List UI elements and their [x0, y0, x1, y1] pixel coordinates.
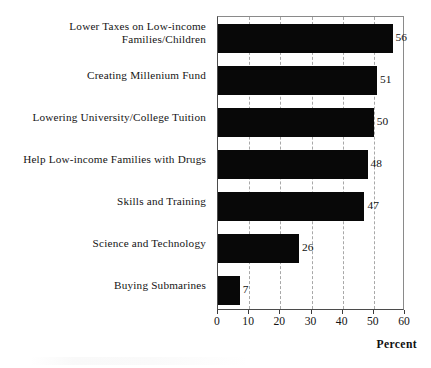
x-tick-label: 40	[336, 316, 348, 328]
bar-chart: Lower Taxes on Low-income Families/Child…	[0, 0, 431, 368]
category-label: Lower Taxes on Low-income Families/Child…	[69, 20, 206, 46]
x-tick-20	[279, 310, 280, 314]
category-label: Skills and Training	[117, 195, 206, 208]
bar	[218, 108, 374, 137]
bar-value-label: 47	[367, 200, 378, 211]
x-axis-title: Percent	[376, 338, 417, 351]
x-tick-40	[342, 310, 343, 314]
x-tick-60	[404, 310, 405, 314]
scan-artifact	[30, 357, 250, 365]
category-label: Help Low-income Families with Drugs	[23, 153, 206, 166]
category-label: Buying Submarines	[114, 279, 206, 292]
bar	[218, 66, 377, 95]
x-tick-label: 30	[305, 316, 317, 328]
x-axis: 0102030405060	[217, 310, 404, 336]
bar-value-label: 56	[396, 32, 407, 43]
bar	[218, 276, 240, 305]
x-tick-30	[311, 310, 312, 314]
x-tick-label: 50	[367, 316, 379, 328]
x-tick-10	[248, 310, 249, 314]
x-tick-label: 0	[214, 316, 220, 328]
x-tick-label: 10	[242, 316, 254, 328]
bar	[218, 150, 368, 179]
bar	[218, 234, 299, 263]
bar-value-label: 7	[243, 284, 249, 295]
x-tick-label: 20	[274, 316, 286, 328]
x-tick-50	[373, 310, 374, 314]
category-axis-labels: Lower Taxes on Low-income Families/Child…	[0, 14, 212, 310]
x-tick-0	[217, 310, 218, 314]
bar-value-label: 51	[380, 74, 391, 85]
category-label: Science and Technology	[93, 237, 206, 250]
bar-value-label: 48	[371, 158, 382, 169]
bar-value-label: 26	[302, 242, 313, 253]
category-label: Creating Millenium Fund	[87, 69, 206, 82]
bar-value-label: 50	[377, 116, 388, 127]
bar	[218, 24, 393, 53]
bar	[218, 192, 364, 221]
category-label: Lowering University/College Tuition	[32, 111, 206, 124]
x-tick-label: 60	[398, 316, 410, 328]
